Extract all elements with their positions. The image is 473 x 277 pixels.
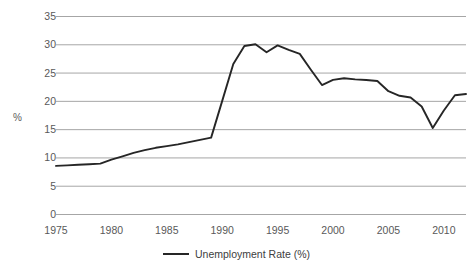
gridlines [56, 17, 466, 215]
plot-area [0, 0, 473, 277]
series-line [56, 44, 466, 166]
data-series-group [56, 44, 466, 166]
legend-line-swatch [163, 253, 189, 255]
chart-legend: Unemployment Rate (%) [0, 248, 473, 260]
unemployment-rate-line-chart: % 05101520253035 19751980198519901995200… [0, 0, 473, 277]
legend-label: Unemployment Rate (%) [195, 248, 310, 260]
